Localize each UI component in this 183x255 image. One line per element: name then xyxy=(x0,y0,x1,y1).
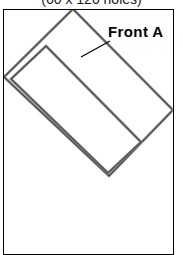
figure-caption: (60 x 120 holes) xyxy=(0,0,183,8)
front-a-label: Front A xyxy=(108,23,164,40)
drawing-sheet xyxy=(3,9,174,255)
